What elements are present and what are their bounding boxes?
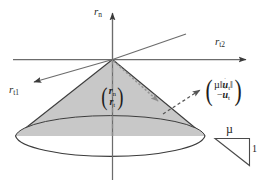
cone-shape [16,60,206,157]
left-paren: ( [101,86,107,107]
velocity-leader-arrow [163,90,200,114]
slope-triangle-unit-label: 1 [252,143,257,154]
right-paren: ) [234,78,241,102]
force-vector-row-tangential: rt [109,97,115,107]
friction-cone-figure: rn rt2 rt1 ( rn rt ) ( µ‖˙ut‖ −˙ut [0,0,266,193]
axis-label-rt2: rt2 [215,36,225,47]
velocity-vector-label: ( µ‖˙ut‖ −˙ut ) [204,78,243,102]
slope-triangle-mu-label: µ [226,122,233,137]
slope-triangle-shape [215,139,250,166]
right-paren: ) [117,86,123,107]
left-paren: ( [205,78,212,102]
axis-label-rn: rn [94,6,102,17]
velocity-vector-row-tangential: −˙ut [217,90,230,100]
force-vector-label: ( rn rt ) [100,86,125,107]
axis-label-rt1: rt1 [9,84,19,95]
